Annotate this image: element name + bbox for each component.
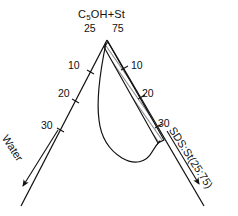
apex-right-value-label: 75: [112, 23, 124, 34]
left-axis-tick-label-30: 30: [41, 120, 53, 131]
apex-formula-element: C: [78, 8, 86, 20]
apex-left-value-label: 25: [84, 23, 96, 34]
hatched-region: [104, 42, 164, 143]
left-axis-tick-label-10: 10: [68, 60, 80, 71]
left-axis-line: [21, 40, 107, 206]
right-axis-tick-label-30: 30: [158, 118, 170, 129]
right-axis-tick-label-20: 20: [142, 88, 154, 99]
left-axis-tick-label-20: 20: [58, 88, 70, 99]
phase-diagram-figure: C5OH+St 25 75 10 20 30 10 20 30 Water SD…: [0, 0, 238, 216]
apex-formula-remainder: OH+St: [91, 8, 125, 20]
right-axis-tick-label-10: 10: [131, 60, 143, 71]
apex-formula-label: C5OH+St: [78, 9, 125, 22]
water-arrow-line: [23, 130, 58, 186]
phase-boundary-curve: [98, 43, 160, 162]
